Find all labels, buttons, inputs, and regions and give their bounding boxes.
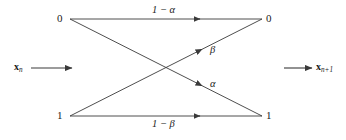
edge-label-zero-to-zero: 1 − α xyxy=(152,5,175,16)
input-state-label: xn xyxy=(14,62,23,72)
output-state-label: xn+1 xyxy=(316,62,333,72)
node-label-bottom-right-one: 1 xyxy=(266,110,272,121)
node-label-top-left-zero: 0 xyxy=(57,13,63,24)
node-label-bottom-left-one: 1 xyxy=(57,110,63,121)
node-label-top-right-zero: 0 xyxy=(266,13,272,24)
edge-label-one-to-zero: β xyxy=(210,45,215,56)
edge-label-one-to-one: 1 − β xyxy=(152,119,175,130)
binary-channel-transition-diagram: 0 0 1 1 1 − α β α 1 − β xn xn+1 xyxy=(0,0,346,140)
edge-label-zero-to-one: α xyxy=(210,79,216,90)
input-subscript: n xyxy=(19,66,23,74)
output-subscript: n+1 xyxy=(321,66,333,74)
